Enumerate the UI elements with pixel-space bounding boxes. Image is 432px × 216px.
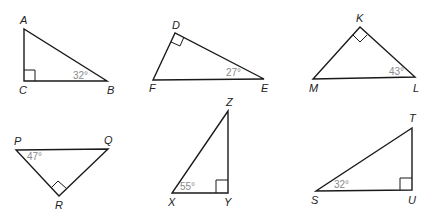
angle-label-e: 27° (226, 67, 241, 78)
vertex-label-d: D (172, 19, 180, 31)
triangle-def-edges (153, 33, 264, 80)
vertex-label-k: K (356, 12, 364, 24)
vertex-label-c: C (19, 84, 27, 96)
right-angle-marker-r (51, 181, 66, 188)
vertex-label-t: T (409, 112, 417, 124)
angle-label-x: 55° (180, 181, 195, 192)
triangle-stu: T S U 32° (311, 112, 417, 206)
triangle-xyz: Z X Y 55° (167, 96, 234, 208)
triangle-abc-edges (24, 29, 107, 81)
triangle-pqr: P Q R 47° (14, 134, 113, 211)
angle-label-l: 43° (389, 66, 404, 77)
vertex-label-p: P (14, 135, 22, 147)
angle-label-p: 47° (27, 151, 42, 162)
triangle-kml: K M L 43° (309, 12, 419, 94)
vertex-label-q: Q (104, 134, 113, 146)
vertex-label-l: L (413, 82, 419, 94)
triangle-def: D F E 27° (149, 19, 269, 94)
triangles-figure: A C B 32° D F E 27° K M L 43° P Q R 47° … (0, 0, 432, 216)
triangle-abc: A C B 32° (19, 14, 114, 96)
vertex-label-b: B (107, 84, 114, 96)
vertex-label-a: A (19, 14, 27, 26)
right-angle-marker-u (400, 178, 412, 190)
vertex-label-u: U (408, 194, 416, 206)
triangle-stu-edges (316, 128, 412, 191)
angle-label-s: 32° (334, 179, 349, 190)
vertex-label-x: X (167, 196, 176, 208)
vertex-label-f: F (149, 82, 157, 94)
right-angle-marker-c (24, 70, 35, 81)
vertex-label-s: S (311, 194, 319, 206)
vertex-label-r: R (55, 199, 63, 211)
vertex-label-m: M (309, 82, 319, 94)
right-angle-marker-k (353, 35, 367, 42)
angle-label-b: 32° (73, 70, 88, 81)
vertex-label-e: E (261, 82, 269, 94)
right-angle-marker-y (216, 180, 228, 193)
vertex-label-z: Z (225, 96, 234, 108)
vertex-label-y: Y (224, 196, 232, 208)
